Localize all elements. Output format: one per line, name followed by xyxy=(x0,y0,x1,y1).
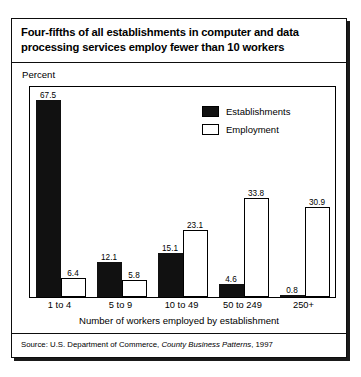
bar-employment: 6.4 xyxy=(61,278,86,297)
bar-employment: 5.8 xyxy=(122,280,147,297)
bar-establishments: 0.8 xyxy=(280,295,305,297)
plot-area: Establishments Employment 67.56.412.15.8… xyxy=(29,86,336,298)
bar-employment: 23.1 xyxy=(183,230,208,297)
bar-value-label: 4.6 xyxy=(225,275,236,284)
x-axis-tick-labels: 1 to 45 to 910 to 4950 to 249250+ xyxy=(29,300,336,314)
x-tick-label: 250+ xyxy=(293,300,314,310)
source-note: Source: U.S. Department of Commerce, Cou… xyxy=(21,340,346,349)
x-tick-label: 1 to 4 xyxy=(48,300,71,310)
bar-group: 4.633.8 xyxy=(219,87,269,297)
bar-value-label: 15.1 xyxy=(162,244,178,253)
bar-establishments: 4.6 xyxy=(219,284,244,297)
source-suffix: , 1997 xyxy=(251,340,273,349)
bar-group: 67.56.4 xyxy=(36,87,86,297)
bar-value-label: 12.1 xyxy=(101,253,117,262)
source-prefix: Source: U.S. Department of Commerce, xyxy=(21,340,161,349)
bar-employment: 30.9 xyxy=(305,207,330,297)
figure-frame: Four-fifths of all establishments in com… xyxy=(11,18,347,358)
bar-establishments: 15.1 xyxy=(158,253,183,297)
bar-establishments: 67.5 xyxy=(36,100,61,297)
bar-value-label: 5.8 xyxy=(128,271,139,280)
bar-group: 0.830.9 xyxy=(280,87,330,297)
chart-title: Four-fifths of all establishments in com… xyxy=(21,25,337,55)
title-band: Four-fifths of all establishments in com… xyxy=(12,19,346,63)
x-axis-title: Number of workers employed by establishm… xyxy=(12,315,346,326)
bar-value-label: 23.1 xyxy=(187,221,203,230)
bar-value-label: 67.5 xyxy=(40,91,56,100)
bar-value-label: 33.8 xyxy=(248,189,264,198)
bar-employment: 33.8 xyxy=(244,198,269,297)
source-publication: County Business Patterns xyxy=(161,340,251,349)
x-tick-label: 50 to 249 xyxy=(223,300,262,310)
bar-value-label: 0.8 xyxy=(286,286,297,295)
bar-group: 15.123.1 xyxy=(158,87,208,297)
y-axis-label: Percent xyxy=(22,69,55,80)
bar-establishments: 12.1 xyxy=(97,262,122,297)
bar-value-label: 6.4 xyxy=(67,269,78,278)
bar-value-label: 30.9 xyxy=(309,198,325,207)
source-band: Source: U.S. Department of Commerce, Cou… xyxy=(12,333,346,357)
x-tick-label: 10 to 49 xyxy=(165,300,199,310)
bars-layer: 67.56.412.15.815.123.14.633.80.830.9 xyxy=(30,87,335,297)
bar-group: 12.15.8 xyxy=(97,87,147,297)
x-tick-label: 5 to 9 xyxy=(109,300,132,310)
